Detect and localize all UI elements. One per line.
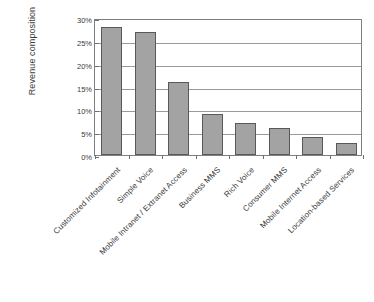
x-axis-category-labels: Customized InfotainmentSimple VoiceMobil… [0,0,374,302]
bar-chart-figure: Revenue composition 0%5%10%15%20%25%30% … [0,0,374,302]
x-label-text: Mobile Internet Access [258,165,323,230]
x-label-text: Customized Infotainment [51,165,122,236]
x-label-text: Rich Voice [222,165,256,199]
x-label-text: Location-based Services [286,165,356,235]
